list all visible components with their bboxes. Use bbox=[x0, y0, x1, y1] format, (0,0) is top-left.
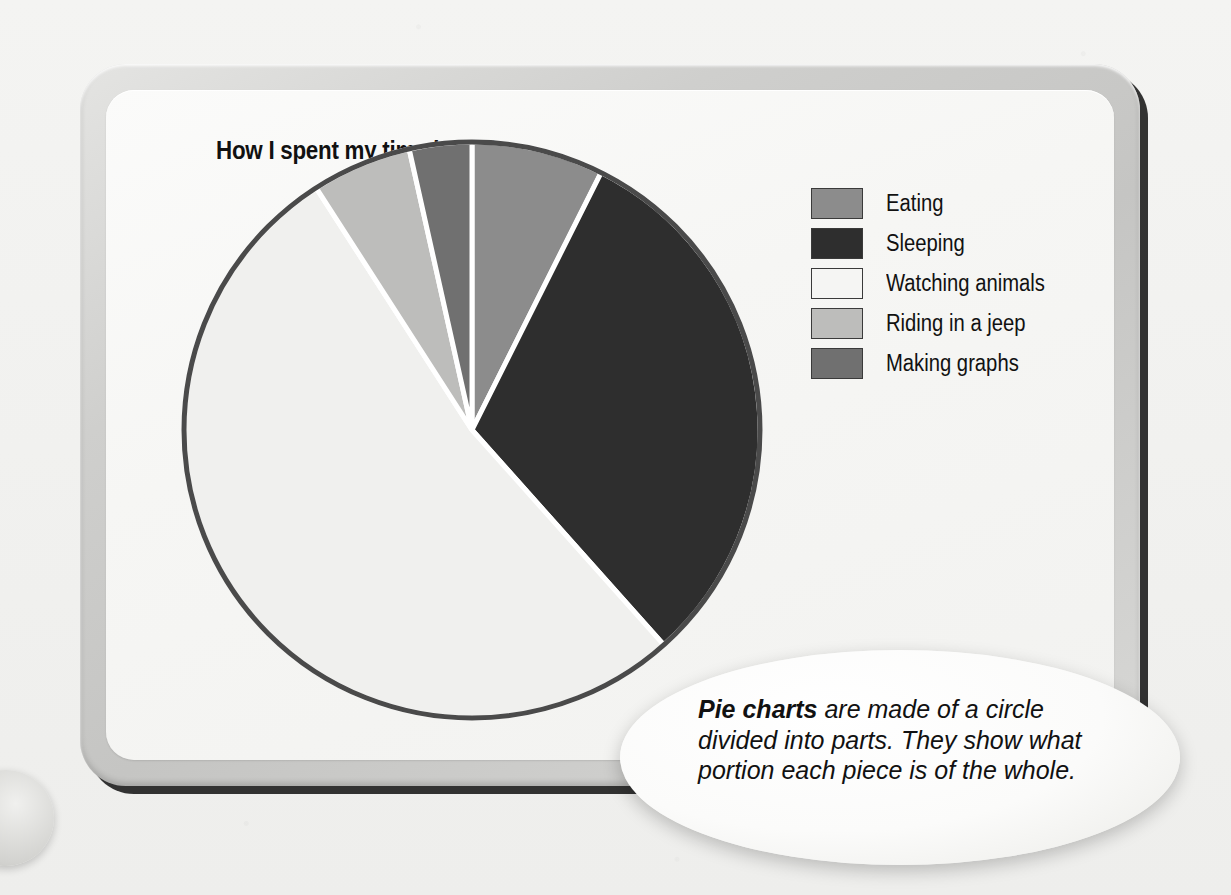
pie-chart bbox=[152, 110, 792, 750]
legend-swatch-eating bbox=[811, 188, 863, 219]
legend-item-making-graphs[interactable]: Making graphs bbox=[811, 348, 1067, 378]
pie-chart-svg bbox=[152, 110, 792, 750]
legend-label-riding-in-a-jeep: Riding in a jeep bbox=[886, 310, 1026, 337]
legend-label-watching-animals: Watching animals bbox=[886, 270, 1045, 297]
pie-slice-group bbox=[184, 142, 760, 718]
legend-item-eating[interactable]: Eating bbox=[811, 188, 1067, 218]
legend-label-sleeping: Sleeping bbox=[886, 230, 965, 257]
legend-item-riding-in-a-jeep[interactable]: Riding in a jeep bbox=[811, 308, 1067, 338]
legend-swatch-riding-in-a-jeep bbox=[811, 308, 863, 339]
legend-item-sleeping[interactable]: Sleeping bbox=[811, 228, 1067, 258]
legend-swatch-watching-animals bbox=[811, 268, 863, 299]
callout-bubble: Pie charts are made of a circle divided … bbox=[620, 650, 1180, 865]
callout-text: Pie charts are made of a circle divided … bbox=[698, 694, 1118, 786]
legend-label-eating: Eating bbox=[886, 190, 943, 217]
legend-swatch-sleeping bbox=[811, 228, 863, 259]
legend-item-watching-animals[interactable]: Watching animals bbox=[811, 268, 1067, 298]
legend: Eating Sleeping Watching animals Riding … bbox=[811, 188, 1067, 388]
legend-swatch-making-graphs bbox=[811, 348, 863, 379]
legend-label-making-graphs: Making graphs bbox=[886, 350, 1019, 377]
callout-bold-lead: Pie charts bbox=[698, 695, 818, 723]
